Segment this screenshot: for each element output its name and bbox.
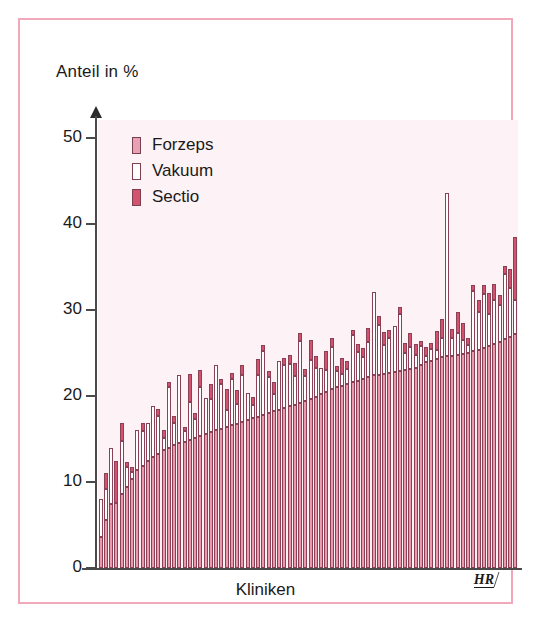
bar-segment-sectio	[351, 382, 355, 568]
bar-segment-vakuum	[456, 333, 460, 355]
legend-item-forzeps[interactable]: Forzeps	[132, 132, 213, 158]
bar-segment-forzeps	[387, 330, 391, 338]
bar-segment-vakuum	[314, 368, 318, 397]
bar-segment-vakuum	[256, 375, 260, 417]
bar-column	[167, 382, 171, 568]
bar-segment-sectio	[130, 479, 134, 568]
bar-segment-vakuum	[188, 402, 192, 440]
legend-label: Forzeps	[152, 135, 213, 155]
bar-column	[461, 323, 465, 568]
bar-column	[198, 370, 202, 568]
bar-segment-forzeps	[450, 329, 454, 338]
y-tick-label: 0	[38, 557, 82, 577]
bar-segment-sectio	[272, 411, 276, 568]
bar-column	[492, 284, 496, 568]
bar-column	[503, 266, 507, 568]
bar-segment-sectio	[267, 413, 271, 568]
bar-segment-vakuum	[109, 448, 113, 503]
bar-segment-forzeps	[456, 312, 460, 334]
bar-column	[498, 295, 502, 568]
bar-segment-vakuum	[298, 341, 302, 403]
bar-segment-sectio	[293, 405, 297, 568]
bar-segment-sectio	[277, 410, 281, 568]
bar-segment-sectio	[324, 392, 328, 568]
bar-segment-sectio	[361, 379, 365, 568]
bar-segment-vakuum	[487, 314, 491, 346]
bar-segment-sectio	[146, 461, 150, 568]
bar-segment-forzeps	[104, 473, 108, 488]
chart-frame: Anteil in % 50403020100 ForzepsVakuumSec…	[18, 18, 513, 604]
bar-column	[356, 344, 360, 568]
bar-column	[240, 365, 244, 568]
bar-column	[471, 285, 475, 568]
bar-segment-vakuum	[345, 369, 349, 384]
bar-segment-forzeps	[230, 373, 234, 379]
bar-segment-vakuum	[387, 338, 391, 373]
bar-segment-vakuum	[162, 438, 166, 450]
bar-segment-vakuum	[156, 416, 160, 454]
bar-segment-sectio	[167, 448, 171, 568]
bar-segment-forzeps	[429, 343, 433, 349]
bar-segment-forzeps	[282, 358, 286, 365]
bar-segment-forzeps	[114, 461, 118, 502]
bar-column	[172, 416, 176, 568]
bar-segment-vakuum	[461, 340, 465, 354]
bar-segment-forzeps	[398, 307, 402, 314]
y-axis-line	[95, 116, 97, 570]
bar-segment-sectio	[209, 432, 213, 568]
bar-column	[508, 269, 512, 568]
legend-label: Vakuum	[152, 161, 213, 181]
bar-segment-vakuum	[398, 314, 402, 371]
bar-column	[109, 448, 113, 568]
y-tick-label: 50	[38, 127, 82, 147]
bar-segment-vakuum	[246, 393, 250, 421]
bar-segment-vakuum	[372, 292, 376, 375]
bar-segment-vakuum	[251, 405, 255, 419]
bar-column	[361, 348, 365, 568]
bar-segment-sectio	[193, 438, 197, 568]
bar-segment-sectio	[335, 387, 339, 568]
bar-segment-sectio	[141, 466, 145, 568]
bar-segment-vakuum	[414, 355, 418, 368]
bar-segment-sectio	[356, 381, 360, 568]
bar-segment-sectio	[135, 470, 139, 568]
bar-segment-sectio	[503, 339, 507, 568]
bar-column	[466, 338, 470, 568]
bar-column	[261, 345, 265, 568]
bar-column	[429, 343, 433, 568]
bar-segment-forzeps	[498, 295, 502, 305]
bar-column	[188, 374, 192, 568]
bar-column	[340, 358, 344, 568]
bar-column	[99, 499, 103, 568]
bar-segment-sectio	[309, 399, 313, 568]
bar-segment-sectio	[256, 417, 260, 568]
bar-segment-forzeps	[335, 366, 339, 371]
bar-column	[351, 330, 355, 568]
bar-column	[377, 316, 381, 568]
bar-segment-vakuum	[382, 345, 386, 373]
bar-segment-vakuum	[508, 288, 512, 337]
legend-item-sectio[interactable]: Sectio	[132, 184, 213, 210]
bar-column	[477, 300, 481, 568]
bar-segment-forzeps	[314, 356, 318, 368]
y-tick-label: 10	[38, 471, 82, 491]
bar-segment-sectio	[156, 454, 160, 568]
bar-segment-sectio	[230, 425, 234, 568]
legend-item-vakuum[interactable]: Vakuum	[132, 158, 213, 184]
bar-segment-sectio	[408, 369, 412, 568]
bar-segment-sectio	[162, 450, 166, 568]
bar-segment-forzeps	[209, 384, 213, 399]
bar-segment-forzeps	[293, 363, 297, 376]
bar-segment-forzeps	[261, 345, 265, 351]
bar-segment-sectio	[471, 351, 475, 568]
bar-segment-forzeps	[193, 413, 197, 419]
bar-column	[303, 369, 307, 568]
bar-column	[445, 193, 449, 568]
bar-column	[104, 473, 108, 568]
bar-segment-forzeps	[198, 370, 202, 387]
bar-segment-vakuum	[282, 365, 286, 408]
bar-segment-vakuum	[366, 342, 370, 377]
bar-segment-sectio	[225, 427, 229, 568]
bar-segment-vakuum	[135, 430, 139, 470]
bar-segment-sectio	[330, 389, 334, 568]
